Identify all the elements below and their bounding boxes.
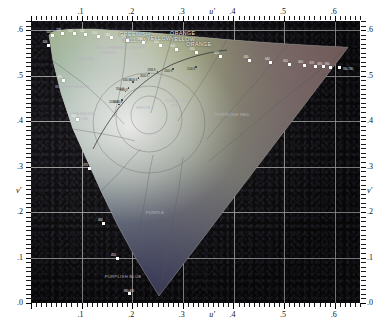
axis-tick xyxy=(41,16,42,20)
axis-tick xyxy=(97,303,98,307)
axis-tick xyxy=(223,303,224,307)
axis-tick xyxy=(361,258,366,259)
axis-tick xyxy=(361,180,366,181)
axis-tick xyxy=(218,16,219,20)
axis-tick xyxy=(361,39,366,40)
axis-tick xyxy=(107,16,108,20)
axis-tick xyxy=(142,16,143,20)
spectral-wavelength-marker xyxy=(142,41,145,44)
spectral-wavelength-marker xyxy=(269,61,272,64)
axis-tick xyxy=(345,16,346,20)
spectral-wavelength-label: 530 xyxy=(68,29,73,33)
x-tick-label-top-.3: .3 xyxy=(179,7,185,16)
axis-tick xyxy=(132,16,133,22)
x-tick-label-bottom-.2: .2 xyxy=(128,310,134,319)
spectral-wavelength-label: 600 xyxy=(170,44,175,48)
planckian-locus-label: 2000 K xyxy=(164,70,172,73)
axis-tick xyxy=(361,130,366,131)
axis-tick xyxy=(26,198,31,199)
spectral-wavelength-label: 470 xyxy=(83,163,88,167)
planckian-locus-label: 1500 K xyxy=(187,68,195,71)
axis-tick xyxy=(355,303,356,307)
planckian-locus-label: 3000 K xyxy=(140,75,148,78)
x-tick-label-top-.4: .4 xyxy=(229,7,235,16)
illuminant-tick-label: 7000 K xyxy=(116,88,124,91)
axis-tick xyxy=(26,80,31,81)
axis-tick xyxy=(361,248,366,249)
x-axis-symbol-top: u' xyxy=(209,7,215,16)
ruler-right xyxy=(360,21,366,303)
x-tick-label-top-.6: .6 xyxy=(331,7,337,16)
color-region-label: ORANGE YELLOW xyxy=(157,30,209,43)
spectral-wavelength-marker xyxy=(116,257,119,260)
planckian-locus-point xyxy=(172,68,174,70)
color-region-label: GREENISH BLUE xyxy=(56,111,108,121)
illuminant-tick-label: 20000 K xyxy=(109,101,119,104)
axis-tick xyxy=(66,303,67,307)
axis-tick xyxy=(213,16,214,20)
axis-tick xyxy=(361,221,366,222)
axis-tick xyxy=(66,16,67,20)
axis-tick xyxy=(299,16,300,20)
axis-tick xyxy=(361,185,366,186)
axis-tick xyxy=(304,16,305,20)
axis-tick xyxy=(361,267,366,268)
spectral-wavelength-marker xyxy=(314,65,317,68)
axis-tick xyxy=(269,16,270,20)
axis-tick xyxy=(26,139,31,140)
axis-tick xyxy=(163,303,164,307)
axis-tick xyxy=(26,98,31,99)
illuminant-tick-label: 2856 K xyxy=(148,69,156,72)
axis-tick xyxy=(198,303,199,307)
spectral-wavelength-label: 520 xyxy=(56,28,61,32)
axis-tick xyxy=(361,89,366,90)
y-tick-label-left-.4: .4 xyxy=(17,116,23,125)
axis-tick xyxy=(325,303,326,307)
ruler-top xyxy=(31,16,360,22)
axis-tick xyxy=(137,303,138,307)
axis-tick xyxy=(361,30,366,31)
axis-tick xyxy=(152,303,153,307)
spectral-wavelength-marker xyxy=(128,292,131,295)
axis-tick xyxy=(26,289,31,290)
axis-tick xyxy=(26,235,31,236)
axis-tick xyxy=(249,16,250,20)
spectral-wavelength-label: 460 xyxy=(98,218,103,222)
spectral-wavelength-label: 560 xyxy=(105,33,110,37)
axis-tick xyxy=(112,16,113,20)
axis-tick xyxy=(26,267,31,268)
axis-tick xyxy=(289,303,290,307)
axis-tick xyxy=(274,303,275,307)
axis-tick xyxy=(361,35,366,36)
axis-tick xyxy=(102,303,103,307)
axis-tick xyxy=(87,16,88,20)
axis-tick xyxy=(46,16,47,20)
axis-tick xyxy=(26,76,31,77)
axis-tick xyxy=(361,171,366,172)
axis-tick xyxy=(361,217,366,218)
axis-tick xyxy=(361,244,366,245)
axis-tick xyxy=(330,16,331,20)
spectral-wavelength-label: 660 xyxy=(298,60,303,64)
axis-tick xyxy=(122,303,123,307)
spectral-wavelength-label: 590 xyxy=(154,40,159,44)
spectral-wavelength-marker xyxy=(329,66,332,69)
spectral-wavelength-marker xyxy=(303,64,306,67)
y-tick-label-left-.1: .1 xyxy=(17,253,23,262)
axis-tick xyxy=(203,303,204,307)
axis-tick xyxy=(142,303,143,307)
axis-tick xyxy=(26,112,31,113)
axis-tick xyxy=(168,303,169,307)
axis-tick xyxy=(41,303,42,307)
axis-tick xyxy=(259,16,260,20)
axis-tick xyxy=(361,21,366,22)
color-region-label: BLUE xyxy=(76,174,128,179)
color-region-label: PURPLE xyxy=(129,210,181,215)
axis-tick xyxy=(361,198,366,199)
axis-tick xyxy=(26,35,31,36)
axis-tick xyxy=(335,16,336,22)
spectral-wavelength-label: 700-780 xyxy=(343,67,353,71)
spectral-wavelength-label: 670 xyxy=(309,61,314,65)
axis-tick xyxy=(26,162,31,163)
axis-tick xyxy=(26,71,31,72)
